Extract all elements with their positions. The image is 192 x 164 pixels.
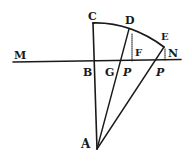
geometry-diagram (0, 0, 192, 164)
label-E: E (161, 31, 169, 42)
label-M: M (14, 50, 26, 61)
label-G: G (105, 67, 114, 78)
label-N: N (168, 48, 178, 59)
label-F: F (135, 47, 142, 58)
label-P1: P (123, 67, 131, 78)
label-D: D (125, 15, 135, 26)
label-P2: P (156, 67, 164, 78)
label-A: A (81, 139, 90, 150)
label-B: B (83, 67, 92, 78)
line-CA (93, 23, 97, 149)
line-AD (97, 29, 129, 149)
line-AE (97, 47, 164, 149)
label-C: C (88, 11, 97, 22)
